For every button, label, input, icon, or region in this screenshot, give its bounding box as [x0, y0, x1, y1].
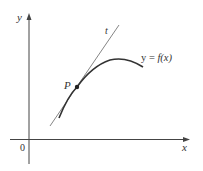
x-axis [10, 137, 190, 142]
tangent-label: t [105, 25, 108, 36]
tangent-line [50, 25, 119, 126]
point-p-marker [75, 85, 79, 89]
x-axis-label: x [181, 141, 187, 153]
curve-label: y = f(x) [141, 52, 172, 64]
point-label: P [63, 79, 71, 91]
tangent-line-diagram: y x 0 t P y = f(x) [0, 0, 203, 171]
y-axis [27, 13, 32, 164]
origin-label: 0 [20, 142, 25, 153]
curve-label-equals: = [146, 52, 157, 63]
y-axis-arrow-icon [27, 13, 32, 20]
y-axis-label: y [16, 11, 22, 23]
function-curve [59, 59, 143, 118]
curve-label-fx: f(x) [157, 52, 172, 64]
